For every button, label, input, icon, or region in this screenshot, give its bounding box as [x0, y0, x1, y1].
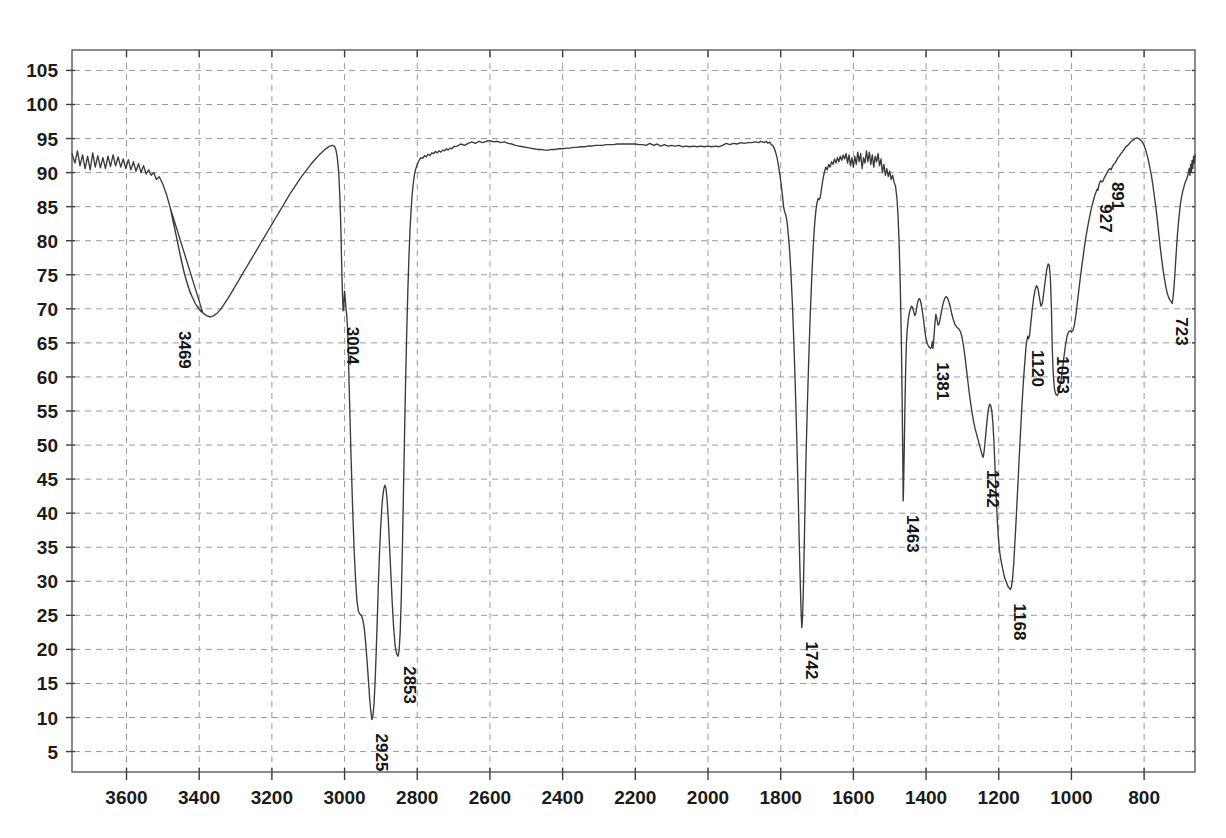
- peak-label-723: 723: [1172, 317, 1191, 345]
- peak-label-3004: 3004: [343, 327, 362, 365]
- x-tick-label: 1600: [832, 787, 874, 808]
- x-tick-label: 800: [1128, 787, 1160, 808]
- x-tick-label: 2400: [541, 787, 583, 808]
- chart-background: [0, 0, 1226, 838]
- y-tick-label: 15: [37, 673, 59, 694]
- y-tick-label: 75: [37, 265, 59, 286]
- y-tick-label: 95: [37, 129, 59, 150]
- y-tick-label: 25: [37, 605, 59, 626]
- y-tick-label: 60: [37, 367, 58, 388]
- y-tick-label: 45: [37, 469, 59, 490]
- x-tick-label: 2000: [687, 787, 729, 808]
- x-tick-label: 3600: [105, 787, 147, 808]
- x-tick-label: 3000: [323, 787, 365, 808]
- y-tick-label: 90: [37, 163, 58, 184]
- peak-label-2853: 2853: [400, 666, 419, 704]
- peak-label-1742: 1742: [802, 642, 821, 680]
- y-tick-label: 20: [37, 639, 58, 660]
- y-tick-label: 35: [37, 537, 59, 558]
- x-tick-label: 1400: [905, 787, 947, 808]
- y-tick-label: 10: [37, 708, 58, 729]
- x-tick-label: 1800: [760, 787, 802, 808]
- peak-label-1168: 1168: [1010, 603, 1029, 640]
- y-tick-label: 80: [37, 231, 58, 252]
- peak-label-1053: 1053: [1053, 356, 1072, 394]
- x-tick-label: 1200: [978, 787, 1020, 808]
- x-tick-label: 1000: [1050, 787, 1092, 808]
- peak-label-3469: 3469: [175, 331, 194, 369]
- y-tick-label: 55: [37, 401, 59, 422]
- x-tick-label: 3400: [178, 787, 220, 808]
- y-tick-label: 5: [47, 742, 58, 763]
- peak-label-1242: 1242: [983, 470, 1002, 508]
- peak-label-1381: 1381: [933, 362, 952, 400]
- y-tick-label: 105: [26, 60, 58, 81]
- y-tick-label: 85: [37, 197, 59, 218]
- peak-label-1120: 1120: [1028, 350, 1047, 387]
- peak-label-1463: 1463: [903, 515, 922, 553]
- peak-label-2925: 2925: [372, 734, 391, 772]
- x-tick-label: 2200: [614, 787, 656, 808]
- x-tick-label: 3200: [251, 787, 293, 808]
- y-tick-label: 70: [37, 299, 58, 320]
- y-tick-label: 40: [37, 503, 58, 524]
- x-tick-label: 2800: [396, 787, 438, 808]
- x-axis-tick-labels: 3600340032003000280026002400220020001800…: [105, 787, 1160, 808]
- peak-label-891: 891: [1108, 182, 1127, 210]
- y-tick-label: 65: [37, 333, 59, 354]
- spectrum-canvas: 5101520253035404550556065707580859095100…: [0, 0, 1226, 838]
- y-tick-label: 100: [26, 94, 58, 115]
- y-tick-label: 30: [37, 571, 58, 592]
- y-tick-label: 50: [37, 435, 58, 456]
- ir-spectrum-chart: 5101520253035404550556065707580859095100…: [0, 0, 1226, 838]
- x-tick-label: 2600: [469, 787, 511, 808]
